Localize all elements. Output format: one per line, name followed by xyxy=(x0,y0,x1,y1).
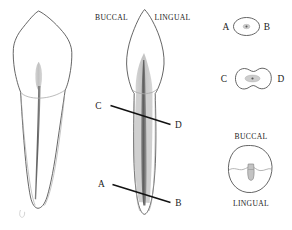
figure-svg: C D A B BUCCAL LINGUAL A B C D xyxy=(0,0,292,230)
proximal-root-canal xyxy=(35,86,41,200)
cross-section-ab: A B xyxy=(223,18,271,36)
cross-section-ab-label-a: A xyxy=(223,22,230,32)
section-line-ab-label-a: A xyxy=(98,179,105,189)
label-buccal-cervical: BUCCAL xyxy=(235,132,268,141)
proximal-root-inner-line-right xyxy=(45,95,65,206)
cross-section-cd: C D xyxy=(221,68,285,89)
cross-section-cervical: BUCCAL LINGUAL xyxy=(228,132,272,208)
label-lingual-cervical: LINGUAL xyxy=(233,199,269,208)
dental-anatomy-figure: C D A B BUCCAL LINGUAL A B C D xyxy=(0,0,292,230)
proximal-root-inner-line-left xyxy=(21,96,35,206)
cross-section-cd-canal xyxy=(251,78,253,80)
cross-section-ab-label-b: B xyxy=(264,22,270,32)
section-line-cd-label-d: D xyxy=(175,120,182,130)
label-lingual-top: LINGUAL xyxy=(154,13,190,22)
proximal-cej-line xyxy=(20,90,65,98)
section-line-ab-label-b: B xyxy=(175,198,181,208)
proximal-view-tooth xyxy=(13,11,72,208)
cross-section-cervical-canal xyxy=(248,164,254,180)
cross-section-ab-canal xyxy=(246,26,248,28)
section-line-cd-label-c: C xyxy=(95,101,101,111)
label-buccal-top: BUCCAL xyxy=(95,13,128,22)
cross-section-cd-label-c: C xyxy=(221,74,227,84)
scan-artifact-mark xyxy=(20,210,25,217)
cross-section-cd-label-d: D xyxy=(278,74,285,84)
